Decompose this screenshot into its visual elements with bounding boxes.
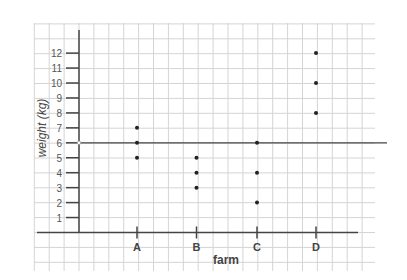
reference-line-origin	[77, 141, 81, 145]
y-tick-label: 12	[51, 48, 63, 59]
data-point	[255, 141, 259, 145]
y-tick-label: 10	[51, 78, 63, 89]
data-point	[195, 156, 199, 160]
data-point	[255, 201, 259, 205]
x-tick-label: D	[312, 241, 320, 253]
data-point	[314, 111, 318, 115]
dot-plot: 123456789101112ABCDfarmweight (kg)	[0, 0, 407, 280]
data-point	[195, 171, 199, 175]
x-tick-label: A	[133, 241, 141, 253]
data-point	[195, 186, 199, 190]
data-point	[135, 126, 139, 130]
y-tick-label: 7	[56, 123, 62, 134]
x-tick-label: B	[193, 241, 201, 253]
y-tick-label: 5	[56, 153, 62, 164]
y-tick-label: 2	[56, 198, 62, 209]
y-tick-label: 6	[56, 138, 62, 149]
y-tick-label: 9	[56, 93, 62, 104]
x-axis-title: farm	[213, 253, 239, 267]
y-tick-label: 8	[56, 108, 62, 119]
y-tick-label: 4	[56, 168, 62, 179]
data-point	[255, 171, 259, 175]
grid	[34, 23, 375, 271]
data-point	[314, 81, 318, 85]
y-tick-label: 11	[52, 63, 63, 74]
y-axis-title: weight (kg)	[35, 99, 49, 158]
x-tick-label: C	[253, 241, 261, 253]
data-point	[314, 51, 318, 55]
y-tick-label: 1	[56, 213, 62, 224]
data-point	[135, 141, 139, 145]
y-tick-label: 3	[56, 183, 62, 194]
data-point	[135, 156, 139, 160]
